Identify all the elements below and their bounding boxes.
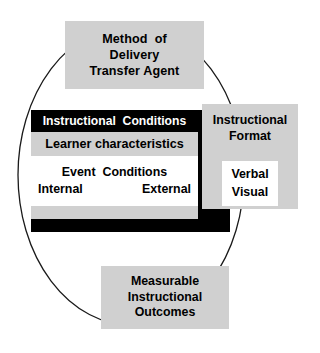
instructional-format-title: Instructional Format bbox=[202, 112, 298, 144]
outcomes-line-1: Measurable bbox=[131, 274, 199, 290]
method-line-2: Delivery bbox=[110, 47, 160, 63]
method-line-3: Transfer Agent bbox=[90, 63, 180, 79]
event-external-label: External bbox=[142, 181, 191, 198]
outcomes-line-3: Outcomes bbox=[135, 305, 196, 321]
method-of-delivery-box: Method of Delivery Transfer Agent bbox=[65, 21, 204, 89]
instructional-conditions-frame: Instructional Conditions Learner charact… bbox=[31, 110, 230, 232]
method-line-1: Method of bbox=[102, 31, 167, 47]
measurable-outcomes-box: Measurable Instructional Outcomes bbox=[101, 266, 229, 329]
visual-label: Visual bbox=[232, 184, 268, 201]
format-line-1: Instructional bbox=[202, 112, 298, 128]
outcomes-line-2: Instructional bbox=[128, 290, 202, 306]
event-conditions-box: Event Conditions Internal External bbox=[31, 156, 198, 206]
event-conditions-subrow: Internal External bbox=[31, 181, 198, 198]
instructional-format-box: Instructional Format Verbal Visual bbox=[202, 104, 298, 209]
event-internal-label: Internal bbox=[38, 181, 83, 198]
event-conditions-title: Event Conditions bbox=[62, 164, 167, 181]
conditions-gray-footer bbox=[31, 206, 198, 219]
verbal-label: Verbal bbox=[231, 166, 268, 183]
instructional-conditions-title: Instructional Conditions bbox=[31, 110, 198, 132]
learner-characteristics-band: Learner characteristics bbox=[31, 132, 198, 156]
format-line-2: Format bbox=[202, 128, 298, 144]
verbal-visual-box: Verbal Visual bbox=[222, 161, 278, 206]
diagram-canvas: Method of Delivery Transfer Agent Instru… bbox=[0, 0, 320, 353]
